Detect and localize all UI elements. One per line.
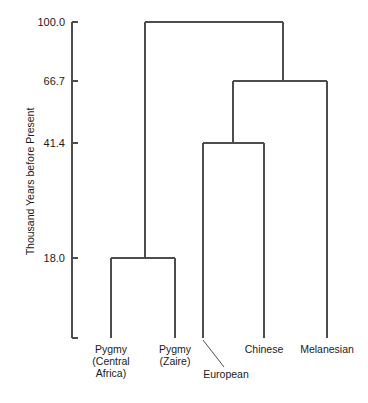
leaf-label-european: European xyxy=(193,368,259,380)
dendrogram-figure: 100.0 66.7 41.4 18.0 Thousand Years befo… xyxy=(0,0,368,403)
leaf-label-pygmy-zaire: Pygmy (Zaire) xyxy=(142,343,208,367)
axis-tick-label-100: 100.0 xyxy=(10,17,65,28)
axis-tick-label-180: 18.0 xyxy=(10,253,65,264)
leaf-label-chinese: Chinese xyxy=(234,343,294,355)
y-axis xyxy=(72,22,78,338)
leaf-label-pygmy-central-africa: Pygmy (Central Africa) xyxy=(76,343,146,380)
axis-tick-label-414: 41.4 xyxy=(10,138,65,149)
y-axis-title: Thousand Years before Present xyxy=(25,87,36,277)
leaf-label-melanesian: Melanesian xyxy=(290,343,364,355)
axis-tick-label-667: 66.7 xyxy=(10,76,65,87)
tree-branches xyxy=(111,22,327,367)
